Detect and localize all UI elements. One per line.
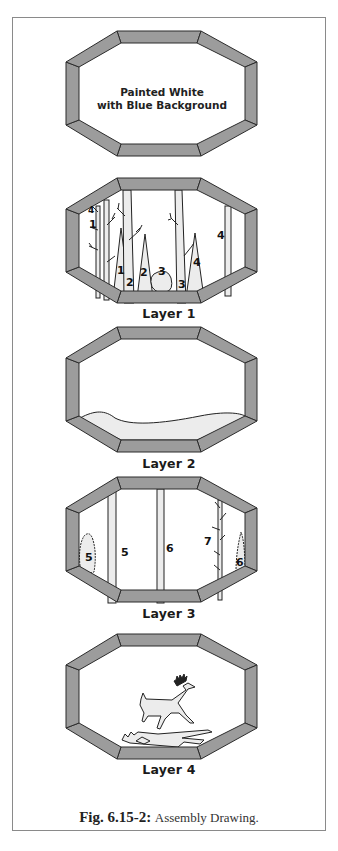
layer-4-panel: Layer 4 xyxy=(0,0,338,780)
layer-4-drawing xyxy=(0,0,338,780)
log-piece xyxy=(122,730,212,747)
caption-label: Fig. 6.15-2: xyxy=(79,809,151,825)
figure-caption: Fig. 6.15-2: Assembly Drawing. xyxy=(12,809,326,826)
deer-piece xyxy=(140,683,195,729)
layer-4-label: Layer 4 xyxy=(0,762,338,777)
caption-text: Assembly Drawing. xyxy=(155,810,259,825)
